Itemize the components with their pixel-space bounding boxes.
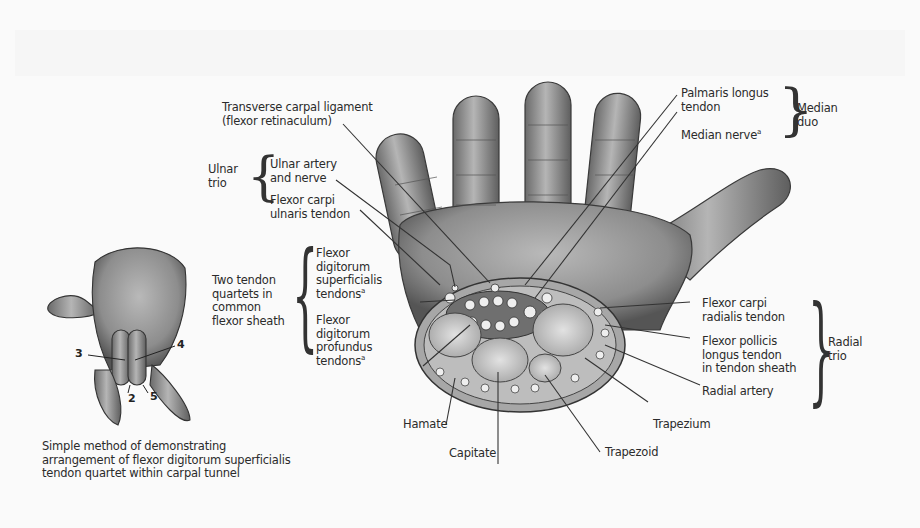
small-hand-number-5: 5: [150, 390, 158, 403]
label-palmaris-longus: Palmaris longus tendon: [681, 87, 769, 114]
label-hamate: Hamate: [403, 418, 447, 432]
label-trapezoid: Trapezoid: [605, 446, 658, 460]
figure-caption: Simple method of demonstrating arrangeme…: [42, 440, 290, 481]
small-hand: [48, 248, 190, 425]
label-flexor-pollicis-longus: Flexor pollicis longus tendon in tendon …: [702, 335, 796, 376]
label-capitate: Capitate: [449, 447, 496, 461]
label-transverse-carpal-ligament: Transverse carpal ligament (flexor retin…: [222, 101, 373, 128]
small-hand-number-2: 2: [128, 392, 136, 405]
label-flexor-carpi-ulnaris: Flexor carpi ulnaris tendon: [270, 194, 350, 221]
group-ulnar-trio: Ulnar trio: [208, 163, 238, 190]
group-radial-trio: Radial trio: [828, 336, 862, 363]
label-flexor-carpi-radialis: Flexor carpi radialis tendon: [702, 297, 785, 324]
group-median-duo: Median duo: [797, 102, 838, 129]
label-median-nerve: Median nervea: [681, 129, 761, 143]
label-ulnar-artery-nerve: Ulnar artery and nerve: [270, 158, 337, 185]
label-fds-tendons: Flexor digitorum superficialis tendonsa: [316, 247, 382, 301]
small-hand-number-4: 4: [177, 338, 185, 351]
label-fdp-tendons: Flexor digitorum profundus tendonsa: [316, 314, 372, 368]
label-radial-artery: Radial artery: [702, 385, 773, 399]
small-hand-number-3: 3: [75, 347, 83, 360]
brace-tendon-quartets: {: [292, 236, 318, 354]
label-trapezium: Trapezium: [653, 418, 710, 432]
group-tendon-quartets: Two tendon quartets in common flexor she…: [212, 274, 285, 328]
